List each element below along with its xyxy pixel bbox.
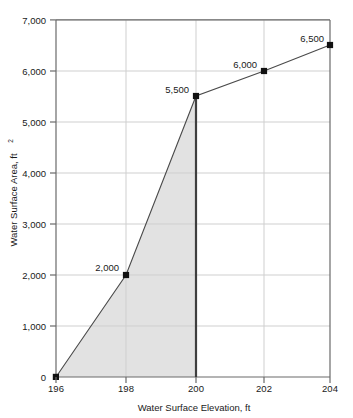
data-point-204: [327, 42, 333, 48]
y-axis-title: Water Surface Area, ft: [8, 153, 19, 246]
ytick-label-0: 0: [41, 372, 46, 383]
data-point-200: [193, 93, 199, 99]
data-point-202: [261, 68, 267, 74]
water-surface-area-chart: 2,000 5,500 6,000 6,500 7,000 6,000 5,00…: [0, 0, 353, 418]
xtick-label-202: 202: [256, 383, 272, 394]
point-label-6000: 6,000: [233, 59, 257, 70]
xtick-label-198: 198: [118, 383, 134, 394]
point-label-6500: 6,500: [300, 33, 324, 44]
chart-container: 2,000 5,500 6,000 6,500 7,000 6,000 5,00…: [0, 0, 353, 418]
data-point-198: [123, 272, 129, 278]
xtick-label-204: 204: [322, 383, 338, 394]
ytick-label-1000: 1,000: [22, 321, 46, 332]
y-axis-title-superscript: 2: [7, 139, 14, 143]
x-axis-title: Water Surface Elevation, ft: [138, 402, 251, 413]
ytick-label-2000: 2,000: [22, 270, 46, 281]
ytick-label-4000: 4,000: [22, 168, 46, 179]
point-label-5500: 5,500: [165, 84, 189, 95]
xtick-label-196: 196: [48, 383, 64, 394]
point-label-2000: 2,000: [95, 262, 119, 273]
ytick-label-6000: 6,000: [22, 66, 46, 77]
ytick-label-3000: 3,000: [22, 219, 46, 230]
ytick-label-5000: 5,000: [22, 117, 46, 128]
ytick-label-7000: 7,000: [22, 15, 46, 26]
xtick-label-200: 200: [188, 383, 204, 394]
y-axis-title-group: Water Surface Area, ft 2: [7, 139, 19, 247]
